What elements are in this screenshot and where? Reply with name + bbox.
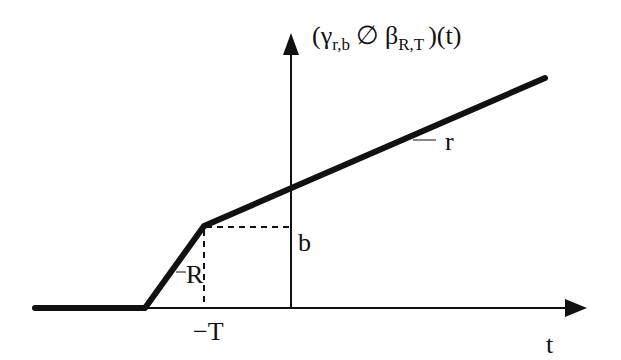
min-plus-deconvolution-diagram: (γr,b∅βR,T)(t) b R r −T t <box>0 0 621 360</box>
title-label: (γr,b∅βR,T)(t) <box>312 21 461 54</box>
x-tick-label-minus-T: −T <box>193 317 224 346</box>
y-axis-arrowhead-icon <box>283 33 299 55</box>
y-level-label-b: b <box>298 228 311 257</box>
slope-label-R: R <box>186 260 204 289</box>
slope-label-r: r <box>445 127 454 156</box>
x-axis-label-t: t <box>546 330 554 359</box>
x-axis-arrowhead-icon <box>565 299 587 317</box>
